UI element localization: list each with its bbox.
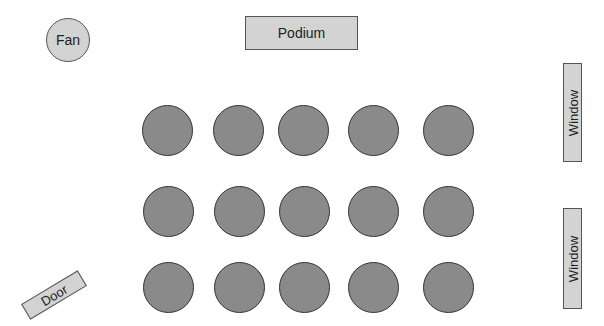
window-lower: Window [563,208,582,309]
door: Door [21,270,87,319]
seat-r3-c2 [214,262,265,313]
seat-r3-c4 [348,262,399,313]
seat-r2-c1 [143,186,194,237]
seat-r1-c4 [348,105,399,156]
seat-r2-c4 [348,186,399,237]
fan: Fan [46,18,90,62]
door-label: Door [38,281,70,308]
window-upper: Window [563,63,582,162]
seat-r2-c5 [423,186,474,237]
seat-r1-c1 [142,105,193,156]
fan-label: Fan [56,32,80,48]
podium: Podium [245,16,358,50]
seat-r1-c5 [423,105,474,156]
seat-r1-c3 [278,105,329,156]
window-upper-label: Window [565,89,580,135]
seat-r3-c5 [423,262,474,313]
window-lower-label: Window [565,235,580,281]
seat-r3-c1 [143,262,194,313]
seat-r2-c2 [214,186,265,237]
seat-r2-c3 [279,186,330,237]
seat-r3-c3 [279,262,330,313]
seat-r1-c2 [213,105,264,156]
podium-label: Podium [278,25,325,41]
classroom-diagram: Fan Podium Window Window Door [0,0,604,326]
